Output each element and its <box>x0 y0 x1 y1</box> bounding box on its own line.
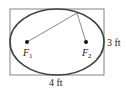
height-label: 3 ft <box>107 38 121 48</box>
line-f2-to-point <box>77 13 86 42</box>
line-f1-to-point <box>27 13 77 42</box>
ellipse <box>10 9 104 75</box>
focus-f2-label: F2 <box>82 48 92 60</box>
focus-f2-dot <box>84 40 88 44</box>
width-label: 4 ft <box>49 78 63 88</box>
focus-f1-dot <box>25 40 29 44</box>
focus-f1-label: F1 <box>23 48 33 60</box>
